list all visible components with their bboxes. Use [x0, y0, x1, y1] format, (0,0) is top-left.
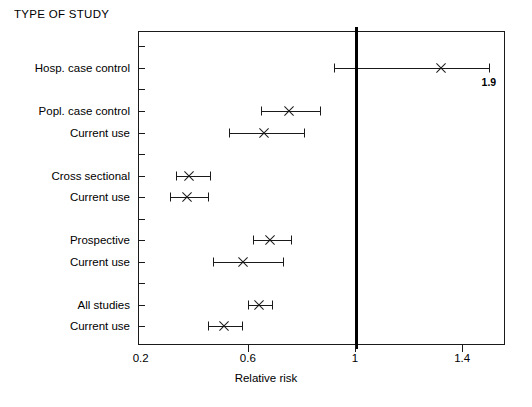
ci-cap-8-high — [242, 322, 243, 331]
x-axis-label: Relative risk — [0, 372, 532, 384]
x-axis-tick-label-2: 1 — [352, 352, 358, 364]
ci-cap-3-low — [176, 171, 177, 180]
point-marker-4 — [180, 191, 193, 204]
value-annotation-0: 1.9 — [482, 76, 497, 88]
y-axis-tick — [138, 262, 145, 263]
ci-cap-4-low — [170, 193, 171, 202]
point-marker-5 — [263, 234, 276, 247]
chart-title: TYPE OF STUDY — [14, 8, 109, 20]
reference-line — [355, 27, 358, 349]
row-label-1: Popl. case control — [39, 105, 130, 117]
point-marker-0 — [434, 61, 447, 74]
ci-cap-1-high — [320, 107, 321, 116]
x-axis-tick-2 — [355, 345, 356, 352]
point-marker-6 — [236, 255, 249, 268]
ci-cap-8-low — [208, 322, 209, 331]
y-axis-tick — [138, 68, 145, 69]
point-marker-2 — [257, 126, 270, 139]
y-axis-tick — [138, 111, 145, 112]
y-axis-tick — [138, 283, 145, 284]
x-axis-tick-label-1: 0.6 — [240, 352, 256, 364]
ci-cap-0-low — [334, 63, 335, 72]
ci-cap-0-high — [489, 63, 490, 72]
point-marker-3 — [182, 169, 195, 182]
ci-cap-6-low — [213, 257, 214, 266]
y-axis-tick — [138, 326, 145, 327]
ci-cap-5-low — [253, 236, 254, 245]
forest-plot-figure: TYPE OF STUDY Hosp. case controlPopl. ca… — [0, 0, 532, 407]
y-axis-tick — [138, 176, 145, 177]
ci-cap-7-low — [248, 300, 249, 309]
ci-cap-1-low — [261, 107, 262, 116]
ci-cap-2-high — [304, 128, 305, 137]
y-axis-tick — [138, 46, 145, 47]
row-label-0: Hosp. case control — [35, 62, 130, 74]
ci-cap-3-high — [210, 171, 211, 180]
y-axis-tick — [138, 154, 145, 155]
point-marker-1 — [282, 105, 295, 118]
plot-frame — [138, 31, 505, 345]
ci-cap-7-high — [272, 300, 273, 309]
row-label-3: Cross sectional — [51, 170, 130, 182]
row-label-5: Prospective — [70, 234, 130, 246]
point-marker-8 — [217, 320, 230, 333]
x-axis-tick-label-0: 0.2 — [133, 352, 149, 364]
ci-cap-5-high — [291, 236, 292, 245]
y-axis-tick — [138, 240, 145, 241]
x-axis-tick-label-3: 1.4 — [454, 352, 470, 364]
x-axis-tick-3 — [462, 345, 463, 352]
row-label-2: Current use — [70, 127, 130, 139]
point-marker-7 — [252, 298, 265, 311]
row-label-8: Current use — [70, 320, 130, 332]
y-axis-tick — [138, 219, 145, 220]
x-axis-tick-1 — [248, 345, 249, 352]
ci-cap-6-high — [283, 257, 284, 266]
row-label-7: All studies — [78, 299, 130, 311]
row-label-4: Current use — [70, 191, 130, 203]
ci-cap-2-low — [229, 128, 230, 137]
y-axis-tick — [138, 197, 145, 198]
y-axis-tick — [138, 133, 145, 134]
y-axis-tick — [138, 89, 145, 90]
ci-cap-4-high — [208, 193, 209, 202]
y-axis-tick — [138, 305, 145, 306]
row-label-6: Current use — [70, 256, 130, 268]
